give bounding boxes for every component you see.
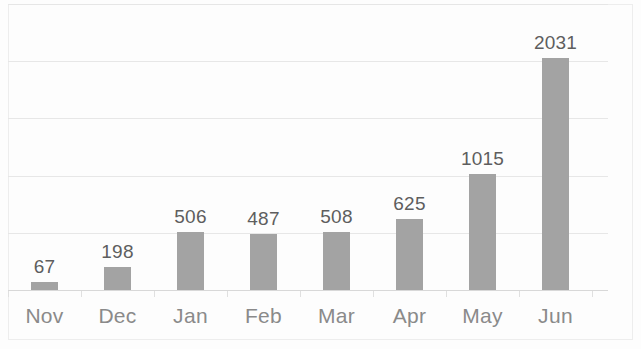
bar-value-label-jan: 506 [154, 206, 227, 228]
x-axis-label-nov: Nov [8, 304, 81, 328]
bar-chart: 6719850648750862510152031 NovDecJanFebMa… [0, 0, 641, 349]
bar-jun[interactable] [542, 58, 569, 290]
bar-value-label-jun: 2031 [519, 32, 592, 54]
bar-slot-mar: 508 [300, 4, 373, 290]
bar-slot-may: 1015 [446, 4, 519, 290]
bar-slot-jun: 2031 [519, 4, 592, 290]
bar-slot-nov: 67 [8, 4, 81, 290]
bars-group: 6719850648750862510152031 [8, 4, 608, 290]
bar-mar[interactable] [323, 232, 350, 290]
bar-jan[interactable] [177, 232, 204, 290]
bar-slot-feb: 487 [227, 4, 300, 290]
bar-value-label-apr: 625 [373, 193, 446, 215]
bar-slot-apr: 625 [373, 4, 446, 290]
bar-apr[interactable] [396, 219, 423, 291]
x-axis-label-jan: Jan [154, 304, 227, 328]
bar-dec[interactable] [104, 267, 131, 290]
x-axis-line [8, 290, 608, 291]
bar-value-label-mar: 508 [300, 206, 373, 228]
bar-slot-dec: 198 [81, 4, 154, 290]
bar-value-label-feb: 487 [227, 208, 300, 230]
x-axis-labels-group: NovDecJanFebMarAprMayJun [8, 296, 608, 340]
bar-nov[interactable] [31, 282, 58, 290]
plot-area: 6719850648750862510152031 [8, 4, 608, 290]
bar-may[interactable] [469, 174, 496, 290]
x-axis-label-feb: Feb [227, 304, 300, 328]
bar-value-label-may: 1015 [446, 148, 519, 170]
x-axis-label-apr: Apr [373, 304, 446, 328]
x-axis-label-mar: Mar [300, 304, 373, 328]
bar-value-label-nov: 67 [8, 256, 81, 278]
bar-value-label-dec: 198 [81, 241, 154, 263]
x-axis-label-dec: Dec [81, 304, 154, 328]
x-axis-label-may: May [446, 304, 519, 328]
bar-feb[interactable] [250, 234, 277, 290]
bar-slot-jan: 506 [154, 4, 227, 290]
x-axis-label-jun: Jun [519, 304, 592, 328]
